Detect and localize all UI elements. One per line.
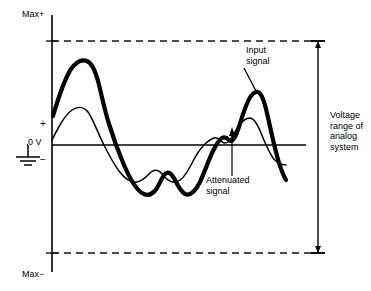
axis-tick-label-minus: − [40,155,46,166]
annotation-voltage-range: Voltage range of analog system [330,110,363,152]
annotation-attenuated-signal: Attenuated signal [206,175,250,196]
figure-canvas [0,0,371,291]
attenuated-signal-leader-arrowhead [229,127,235,136]
input-signal-leader-line [244,68,256,91]
axis-label-max-negative: Max− [22,269,44,280]
axis-label-zero-volt: 0 V [28,137,42,148]
voltage-range-bracket [311,41,325,253]
signal-attenuation-figure: Max+ Max− + 0 V − Input signal Attenuate… [0,0,371,291]
annotation-input-signal: Input signal [246,45,270,66]
ground-icon [16,145,40,165]
axis-label-max-positive: Max+ [22,9,44,20]
axis-tick-label-plus: + [40,119,46,130]
